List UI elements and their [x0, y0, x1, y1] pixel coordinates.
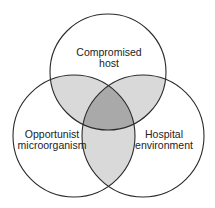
label-compromised-line2: host: [99, 57, 119, 69]
label-hospital-line2: environment: [135, 139, 193, 151]
label-opportunist-line2: microorganism: [18, 139, 87, 151]
venn-diagram: Compromised host Opportunist microorgani…: [0, 0, 215, 208]
